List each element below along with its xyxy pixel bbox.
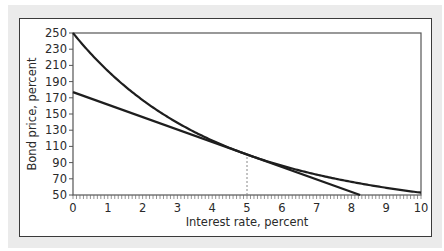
y-tick-label: 110 bbox=[45, 139, 67, 153]
x-tick-label: 7 bbox=[313, 201, 320, 215]
y-tick-label: 90 bbox=[52, 156, 67, 170]
x-tick-label: 8 bbox=[348, 201, 355, 215]
x-tick-label: 6 bbox=[278, 201, 285, 215]
y-tick-label: 250 bbox=[45, 26, 67, 40]
x-tick-label: 9 bbox=[383, 201, 390, 215]
y-tick-label: 130 bbox=[45, 123, 67, 137]
y-tick-label: 190 bbox=[45, 75, 67, 89]
y-tick-label: 230 bbox=[45, 42, 67, 56]
x-tick-label: 0 bbox=[69, 201, 76, 215]
y-axis-title: Bond price, percent bbox=[25, 57, 39, 171]
x-tick-label: 4 bbox=[209, 201, 216, 215]
x-tick-label: 3 bbox=[174, 201, 181, 215]
y-tick-label: 50 bbox=[52, 188, 67, 202]
x-tick-label: 2 bbox=[139, 201, 146, 215]
x-tick-label: 10 bbox=[414, 201, 429, 215]
y-tick-label: 170 bbox=[45, 91, 67, 105]
y-tick-label: 70 bbox=[52, 172, 67, 186]
y-tick-label: 210 bbox=[45, 58, 67, 72]
bond-price-chart: 0123456789105070901101301501701902102302… bbox=[0, 0, 444, 251]
x-tick-label: 5 bbox=[243, 201, 250, 215]
y-tick-label: 150 bbox=[45, 107, 67, 121]
x-axis-title: Interest rate, percent bbox=[186, 215, 309, 229]
x-tick-label: 1 bbox=[104, 201, 111, 215]
